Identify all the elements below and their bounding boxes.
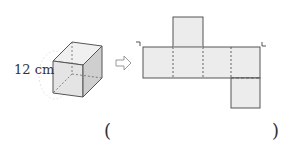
edge-length-label: 12 cm <box>14 62 54 77</box>
answer-blank[interactable] <box>112 122 268 142</box>
net-face-top <box>173 17 203 47</box>
corner-mark-left <box>136 42 140 46</box>
answer-close-paren: ) <box>272 120 279 141</box>
net-face-bottom <box>231 78 260 108</box>
cube-net <box>143 17 260 108</box>
corner-mark-right <box>262 42 266 46</box>
net-face-row <box>143 47 260 78</box>
answer-open-paren: ( <box>104 120 111 141</box>
hollow-right-arrow-icon <box>116 56 131 70</box>
